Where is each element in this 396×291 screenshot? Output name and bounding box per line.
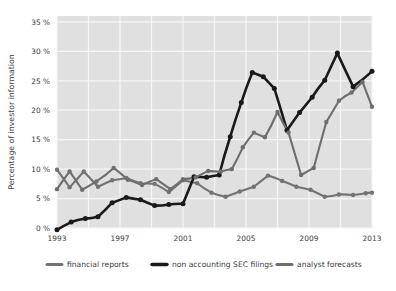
data-point	[322, 78, 327, 83]
data-point	[82, 169, 86, 173]
data-point	[168, 187, 172, 191]
data-point	[83, 216, 88, 221]
data-point	[67, 185, 71, 189]
data-point	[252, 185, 256, 189]
data-point	[275, 110, 279, 114]
data-point	[152, 182, 156, 186]
data-point	[219, 169, 223, 173]
data-point	[370, 190, 374, 194]
data-point	[228, 134, 233, 139]
data-point	[263, 135, 267, 139]
x-axis-tick-label: 1997	[111, 234, 130, 243]
legend-label-analyst-forecasts[interactable]: analyst forecasts	[297, 260, 362, 269]
x-axis-tick-label: 2009	[300, 234, 319, 243]
data-point	[95, 214, 100, 219]
data-point	[80, 188, 84, 192]
data-point	[69, 220, 74, 225]
data-point	[140, 183, 144, 187]
data-point	[55, 187, 59, 191]
y-axis-tick-label: 20 %	[31, 106, 50, 115]
data-point	[266, 173, 270, 177]
x-axis-tick-label: 2013	[363, 234, 382, 243]
data-point	[241, 145, 245, 149]
data-point	[223, 195, 227, 199]
data-point	[351, 84, 356, 89]
data-point	[230, 167, 234, 171]
data-point	[349, 90, 353, 94]
data-point	[360, 80, 364, 84]
y-axis-tick-label: 25 %	[31, 77, 50, 86]
data-point	[280, 179, 284, 183]
data-point	[55, 168, 59, 172]
data-point	[112, 166, 116, 170]
data-point	[166, 202, 171, 207]
data-point	[308, 188, 312, 192]
y-axis-tick-label: 10 %	[31, 165, 50, 174]
data-point	[154, 177, 158, 181]
data-point	[239, 100, 244, 105]
data-point	[324, 120, 328, 124]
data-point	[209, 190, 213, 194]
data-point	[204, 175, 209, 180]
legend-label-non-accounting-SEC-filings[interactable]: non accounting SEC filings	[172, 260, 273, 269]
y-axis-tick-label: 0 %	[36, 224, 50, 233]
data-point	[238, 189, 242, 193]
data-point	[370, 69, 375, 74]
data-point	[294, 185, 298, 189]
data-point	[364, 191, 368, 195]
data-point	[310, 95, 315, 100]
data-point	[67, 169, 71, 173]
data-point	[337, 192, 341, 196]
data-point	[181, 201, 186, 206]
data-point	[337, 99, 341, 103]
line-chart: 0 %5 %10 %15 %20 %25 %30 %35 % 199319972…	[0, 0, 396, 291]
chart-legend: financial reportsnon accounting SEC fili…	[47, 260, 362, 269]
legend-label-financial-reports[interactable]: financial reports	[67, 260, 129, 269]
data-point	[323, 195, 327, 199]
x-axis-tick-label: 1993	[48, 234, 67, 243]
data-point	[96, 185, 100, 189]
y-axis-tick-label: 5 %	[36, 194, 50, 203]
x-axis-tick-label: 2005	[237, 234, 256, 243]
x-axis-tick-labels: 199319972001200520092013	[48, 234, 382, 243]
data-point	[252, 130, 256, 134]
data-point	[335, 51, 340, 56]
y-axis-title: Percentage of investor information	[7, 54, 16, 189]
data-point	[181, 177, 185, 181]
data-point	[152, 203, 157, 208]
data-point	[261, 74, 266, 79]
y-axis-tick-label: 35 %	[31, 18, 50, 27]
y-axis-tick-labels: 0 %5 %10 %15 %20 %25 %30 %35 %	[31, 18, 50, 233]
data-point	[110, 200, 115, 205]
data-point	[126, 178, 130, 182]
data-point	[55, 227, 60, 232]
data-point	[312, 166, 316, 170]
x-axis-tick-label: 2001	[174, 234, 193, 243]
data-point	[351, 193, 355, 197]
data-point	[272, 86, 277, 91]
data-point	[286, 130, 290, 134]
y-axis-tick-label: 15 %	[31, 135, 50, 144]
data-point	[250, 70, 255, 75]
data-point	[206, 169, 210, 173]
data-point	[297, 110, 302, 115]
data-point	[124, 195, 129, 200]
data-point	[94, 179, 98, 183]
data-point	[138, 197, 143, 202]
y-axis-tick-label: 30 %	[31, 47, 50, 56]
data-point	[193, 175, 197, 179]
data-point	[299, 173, 303, 177]
data-point	[195, 181, 199, 185]
data-point	[370, 104, 374, 108]
data-point	[110, 178, 114, 182]
chart-figure: 0 %5 %10 %15 %20 %25 %30 %35 % 199319972…	[0, 0, 396, 291]
